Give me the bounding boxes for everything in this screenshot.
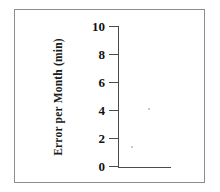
figure-frame-border bbox=[14, 9, 205, 183]
y-axis-spine bbox=[118, 27, 119, 168]
chart-figure: Error per Month (min) 0246810 bbox=[0, 0, 220, 192]
scan-speck bbox=[131, 146, 133, 148]
y-axis-title: Error per Month (min) bbox=[50, 22, 66, 172]
scan-speck bbox=[148, 108, 150, 110]
x-axis-spine bbox=[118, 167, 171, 168]
